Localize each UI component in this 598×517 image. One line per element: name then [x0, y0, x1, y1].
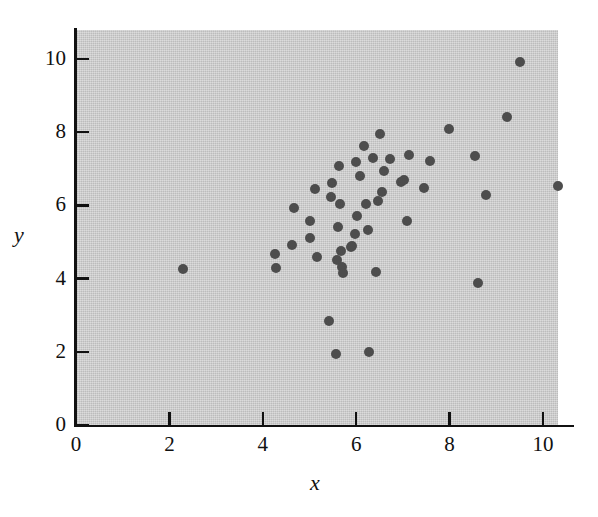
- scatter-point: [335, 199, 345, 209]
- scatter-point: [379, 166, 389, 176]
- scatter-point: [553, 181, 563, 191]
- x-tick-mark: [448, 412, 451, 425]
- scatter-point: [333, 222, 343, 232]
- y-axis-title: y: [14, 222, 24, 248]
- x-tick-mark: [168, 412, 171, 425]
- scatter-point: [355, 171, 365, 181]
- scatter-point: [324, 316, 334, 326]
- y-tick-label: 4: [22, 268, 66, 289]
- x-tick-mark: [355, 412, 358, 425]
- scatter-point: [419, 183, 429, 193]
- scatter-point: [363, 225, 373, 235]
- scatter-point: [402, 216, 412, 226]
- y-tick-mark: [76, 424, 89, 427]
- scatter-point: [347, 241, 357, 251]
- scatter-point: [270, 249, 280, 259]
- scatter-point: [350, 229, 360, 239]
- y-tick-label: 6: [22, 194, 66, 215]
- scatter-point: [470, 151, 480, 161]
- scatter-point: [289, 203, 299, 213]
- scatter-point: [305, 216, 315, 226]
- scatter-point: [178, 264, 188, 274]
- scatter-point: [287, 240, 297, 250]
- scatter-point: [515, 57, 525, 67]
- x-tick-label: 10: [523, 434, 563, 455]
- scatter-point: [502, 112, 512, 122]
- x-axis-title: x: [310, 470, 320, 496]
- scatter-point: [444, 124, 454, 134]
- x-axis-line: [74, 425, 574, 428]
- scatter-point: [373, 196, 383, 206]
- scatter-point: [336, 246, 346, 256]
- scatter-plot-figure: 0246810 0246810 y x: [0, 0, 598, 517]
- scatter-point: [361, 199, 371, 209]
- y-tick-mark: [76, 277, 89, 280]
- x-tick-mark: [262, 412, 265, 425]
- x-tick-label: 8: [430, 434, 470, 455]
- scatter-point: [481, 190, 491, 200]
- x-tick-label: 0: [56, 434, 96, 455]
- scatter-point: [399, 175, 409, 185]
- scatter-point: [310, 184, 320, 194]
- plot-area: [76, 30, 558, 425]
- scatter-point: [385, 154, 395, 164]
- scatter-point: [368, 153, 378, 163]
- scatter-point: [404, 150, 414, 160]
- y-tick-label: 10: [22, 48, 66, 69]
- scatter-point: [305, 233, 315, 243]
- x-tick-mark: [75, 412, 78, 425]
- x-tick-label: 6: [336, 434, 376, 455]
- scatter-point: [359, 141, 369, 151]
- y-axis-line: [74, 28, 77, 427]
- scatter-point: [364, 347, 374, 357]
- scatter-point: [338, 268, 348, 278]
- scatter-point: [425, 156, 435, 166]
- scatter-point: [351, 157, 361, 167]
- y-tick-mark: [76, 131, 89, 134]
- x-tick-mark: [542, 412, 545, 425]
- x-tick-label: 2: [149, 434, 189, 455]
- y-tick-mark: [76, 351, 89, 354]
- y-tick-mark: [76, 204, 89, 207]
- scatter-point: [312, 252, 322, 262]
- scatter-point: [327, 178, 337, 188]
- scatter-point: [473, 278, 483, 288]
- scatter-point: [326, 192, 336, 202]
- y-tick-label: 2: [22, 341, 66, 362]
- scatter-point: [334, 161, 344, 171]
- y-tick-label: 8: [22, 121, 66, 142]
- scatter-point: [375, 129, 385, 139]
- y-tick-label: 0: [22, 414, 66, 435]
- scatter-point: [271, 263, 281, 273]
- y-tick-mark: [76, 58, 89, 61]
- scatter-point: [352, 211, 362, 221]
- x-tick-label: 4: [243, 434, 283, 455]
- scatter-point: [371, 267, 381, 277]
- scatter-point: [377, 187, 387, 197]
- scatter-point: [331, 349, 341, 359]
